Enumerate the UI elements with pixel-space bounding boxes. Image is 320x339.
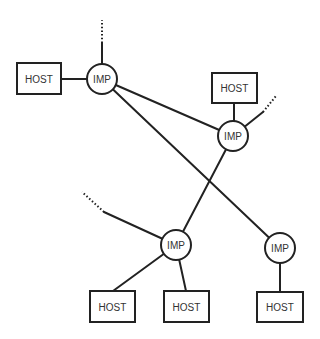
host-links	[61, 79, 280, 292]
host-node-2: HOST	[212, 73, 257, 103]
imp-label: IMP	[271, 243, 289, 254]
host-label: HOST	[221, 83, 249, 94]
host-node-3: HOST	[90, 291, 135, 322]
imp-node-1: IMP	[87, 64, 117, 94]
host-label: HOST	[25, 74, 53, 85]
host-node-5: HOST	[257, 292, 303, 322]
imp-label: IMP	[93, 74, 111, 85]
network-diagram: HOST HOST HOST HOST HOST IMP IMP IMP IMP	[0, 0, 320, 339]
imp-node-4: IMP	[265, 233, 295, 263]
host-label: HOST	[99, 302, 127, 313]
host-node-1: HOST	[17, 63, 61, 94]
imp-node-3: IMP	[161, 230, 191, 260]
imp-label: IMP	[167, 240, 185, 251]
host-label: HOST	[266, 302, 294, 313]
host-label: HOST	[173, 302, 201, 313]
ext-link-imp2-dotted	[263, 96, 276, 112]
link-imp2-imp3	[176, 136, 233, 245]
host-node-4: HOST	[164, 291, 209, 322]
imp-node-2: IMP	[218, 121, 248, 151]
imp-label: IMP	[224, 131, 242, 142]
ext-link-imp3-dotted	[82, 192, 104, 212]
